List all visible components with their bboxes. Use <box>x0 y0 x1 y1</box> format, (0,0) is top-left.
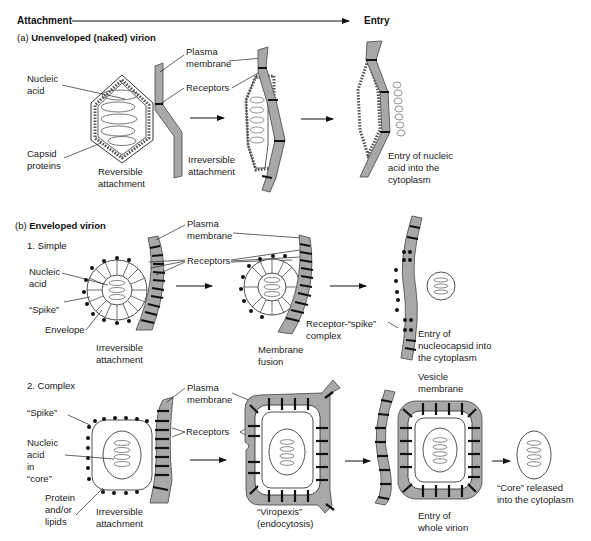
virion-entry-diagram <box>0 0 591 541</box>
enveloped-simple-attach <box>82 236 165 330</box>
label-b1-nucleic-acid: Nucleic acid <box>29 266 60 290</box>
label-b1-spike: “Spike” <box>29 304 59 316</box>
label-b2-receptors: Receptors <box>186 426 229 438</box>
label-b1-entry: Entry of nucleocapsid into the cytoplasm <box>418 328 491 364</box>
label-a-irreversible-attachment: Irreversible attachment <box>188 154 235 178</box>
label-a-receptors: Receptors <box>186 82 229 94</box>
label-b2-viropexis: “Viropexis” (endocytosis) <box>257 506 314 530</box>
attachment-label: Attachment <box>17 15 72 26</box>
label-b2-irreversible-attachment: Irreversible attachment <box>96 506 143 530</box>
label-a-capsid-proteins: Capsid proteins <box>27 148 61 172</box>
section-b2-title: 2. Complex <box>27 380 75 391</box>
label-b2-plasma-membrane: Plasma membrane <box>187 382 232 406</box>
label-b2-vesicle-membrane: Vesicle membrane <box>418 371 463 395</box>
label-b1-irreversible-attachment: Irreversible attachment <box>96 342 143 366</box>
label-a-plasma-membrane: Plasma membrane <box>186 46 231 70</box>
section-b-title: (b) Enveloped virion <box>15 220 106 231</box>
plasma-membrane-a1 <box>155 63 182 178</box>
label-b2-core-released: “Core” released into the cytoplasm <box>497 482 574 506</box>
label-b2-entry-whole: Entry of whole virion <box>418 510 468 534</box>
label-b1-receptors: Receptors <box>187 255 230 267</box>
label-b1-envelope: Envelope <box>45 324 85 336</box>
label-a-reversible-attachment: Reversible attachment <box>98 166 145 190</box>
section-a-title: (a) Unenveloped (naked) virion <box>17 32 156 43</box>
label-b2-protein-lipids: Protein and/or lipids <box>45 492 75 528</box>
label-b1-plasma-membrane: Plasma membrane <box>187 218 232 242</box>
label-b1-membrane-fusion: Membrane fusion <box>258 344 303 368</box>
enveloped-complex-attach <box>86 397 173 503</box>
entry-label: Entry <box>364 15 390 26</box>
enveloped-complex-vesicle <box>375 390 482 505</box>
enveloped-simple-fusion <box>239 235 313 334</box>
section-b1-title: 1. Simple <box>27 240 67 251</box>
enveloped-complex-viropexis <box>245 380 340 513</box>
released-core <box>517 431 551 479</box>
label-b1-receptor-spike-complex: Receptor-“spike” complex <box>306 318 376 342</box>
label-a-entry: Entry of nucleic acid into the cytoplasm <box>388 150 453 186</box>
label-a-nucleic-acid: Nucleic acid <box>27 73 58 97</box>
section-a-heading: Unenveloped (naked) virion <box>31 32 156 43</box>
section-a-prefix: (a) <box>17 32 31 43</box>
naked-virion-reversible <box>91 75 153 163</box>
naked-virion-irreversible <box>246 47 285 192</box>
section-b-prefix: (b) <box>15 220 29 231</box>
section-b-heading: Enveloped virion <box>29 220 106 231</box>
label-b2-spike: “Spike” <box>27 407 57 419</box>
label-b2-nucleic-acid-core: Nucleic acid in “core” <box>27 437 58 485</box>
